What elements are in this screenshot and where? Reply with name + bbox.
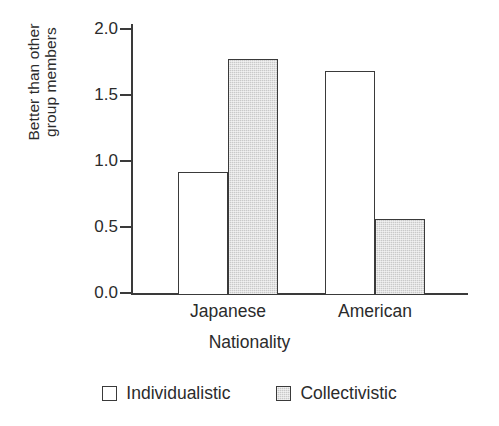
chart-legend: IndividualisticCollectivistic (0, 383, 499, 404)
legend-swatch-open-icon (102, 386, 117, 401)
bar-american-collectivistic (375, 219, 425, 295)
y-axis-tick (120, 28, 132, 30)
y-axis-tick (120, 226, 132, 228)
legend-item-individualistic[interactable]: Individualistic (102, 383, 230, 404)
bar-japanese-individualistic (178, 172, 228, 295)
y-axis-title: Better than other group members (21, 0, 65, 207)
y-axis-ticks: 0.00.51.01.52.0 (66, 0, 118, 426)
y-axis-title-line-1: Better than other (26, 23, 43, 140)
bar-chart-figure: Better than other group members 0.00.51.… (0, 0, 499, 426)
y-axis-tick-label: 1.0 (72, 151, 118, 171)
y-axis-tick-label: 1.5 (72, 85, 118, 105)
y-axis-tick (120, 160, 132, 162)
x-axis-title: Nationality (0, 332, 499, 353)
x-axis-label-american: American (338, 301, 412, 322)
x-axis-label-japanese: Japanese (190, 301, 266, 322)
y-axis-title-line-2: group members (43, 27, 60, 137)
y-axis-tick-label: 0.0 (72, 283, 118, 303)
y-axis-tick (120, 292, 132, 294)
bar-japanese-collectivistic (228, 59, 278, 295)
legend-swatch-filled-icon (276, 386, 291, 401)
bar-american-individualistic (325, 71, 375, 295)
y-axis-tick (120, 94, 132, 96)
legend-label: Individualistic (126, 383, 230, 404)
legend-label: Collectivistic (300, 383, 396, 404)
legend-item-collectivistic[interactable]: Collectivistic (276, 383, 396, 404)
y-axis-tick-label: 2.0 (72, 19, 118, 39)
y-axis-tick-label: 0.5 (72, 217, 118, 237)
